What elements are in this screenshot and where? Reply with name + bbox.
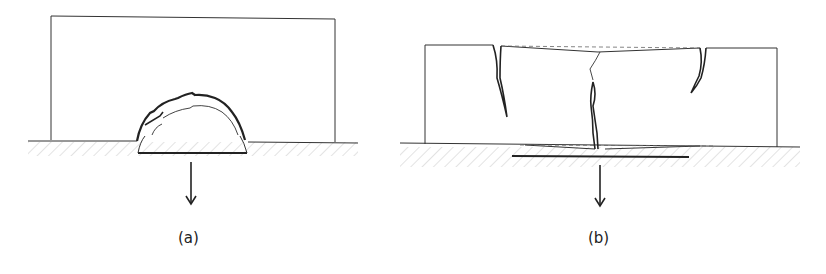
block-top-deformed (425, 45, 777, 52)
block-outline (51, 16, 335, 142)
panel-b (400, 45, 800, 206)
crack-right (691, 48, 706, 93)
panel-a (28, 16, 358, 204)
ground-line (400, 143, 800, 147)
crack-center (591, 82, 598, 149)
panel-label-a: (a) (178, 229, 199, 247)
figure-canvas (0, 0, 826, 274)
crack-left (493, 45, 507, 117)
support-plate (512, 156, 689, 157)
crack-inner (152, 106, 238, 135)
crack-center-thin (590, 52, 600, 80)
panel-label-b: (b) (588, 229, 609, 247)
crack-outer (137, 93, 245, 141)
crack-branch (145, 112, 163, 125)
